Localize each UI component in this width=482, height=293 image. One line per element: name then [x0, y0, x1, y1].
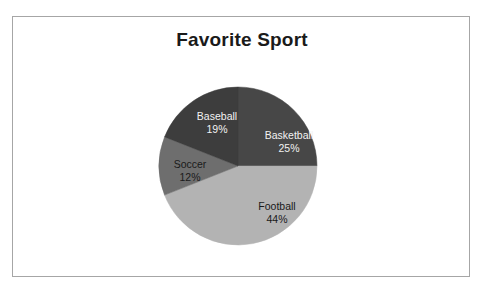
- pie-slice-basketball: [238, 87, 317, 166]
- pie-chart-svg: [158, 86, 318, 246]
- chart-title: Favorite Sport: [13, 29, 471, 51]
- clipped-text-row: · · · ·: [0, 0, 482, 4]
- pie-chart: Basketball 25% Football 44% Soccer 12% B…: [158, 86, 318, 246]
- chart-figure-frame: Favorite Sport Basketball 25% Football 4…: [12, 16, 470, 277]
- pie-slice-group: [159, 87, 317, 245]
